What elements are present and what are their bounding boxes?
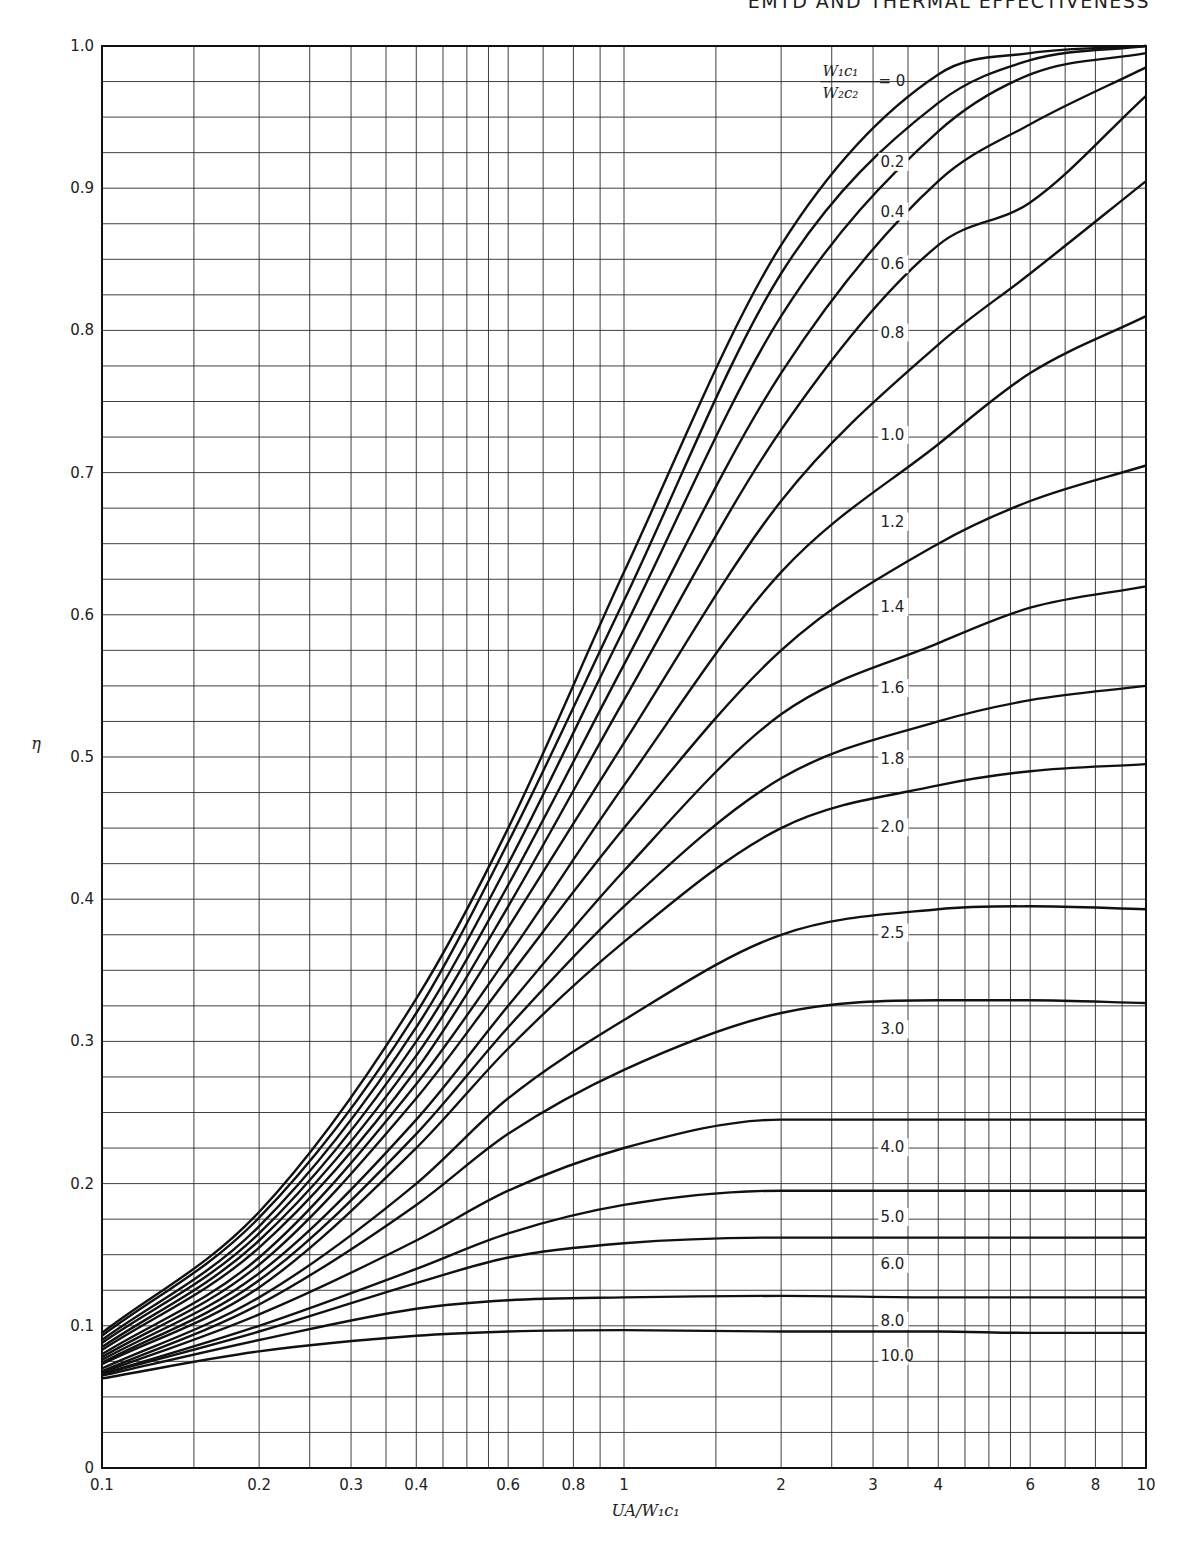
x-tick-label: 6	[1025, 1476, 1035, 1494]
y-tick-label: 0.6	[70, 606, 94, 624]
curve-label-1.6: 1.6	[880, 679, 904, 697]
x-tick-label: 1	[619, 1476, 629, 1494]
curve-label-1.2: 1.2	[880, 513, 904, 531]
x-tick-label: 2	[776, 1476, 786, 1494]
y-tick-label: 0.4	[70, 890, 94, 908]
x-axis-ticks: 0.10.20.30.40.60.812346810	[90, 1476, 1155, 1494]
legend-denominator: W₂c₂	[822, 84, 858, 102]
x-tick-label: 0.1	[90, 1476, 114, 1494]
curve-label-0.6: 0.6	[880, 255, 904, 273]
x-tick-label: 10	[1136, 1476, 1155, 1494]
curve-label-5.0: 5.0	[880, 1208, 904, 1226]
curve-label-1.4: 1.4	[880, 598, 904, 616]
y-tick-label: 0.7	[70, 464, 94, 482]
effectiveness-chart: 0.20.40.60.81.01.21.41.61.82.02.53.04.05…	[0, 0, 1180, 1558]
y-axis-title: η	[31, 734, 41, 753]
curve-label-1.0: 1.0	[880, 426, 904, 444]
y-tick-label: 0	[84, 1459, 94, 1477]
y-axis-ticks: 00.10.20.30.40.50.60.70.80.91.0	[70, 37, 94, 1477]
curve-label-3.0: 3.0	[880, 1020, 904, 1038]
legend-ratio-label: W₁c₁ W₂c₂ = 0	[820, 62, 905, 102]
y-tick-label: 0.3	[70, 1032, 94, 1050]
x-tick-label: 4	[934, 1476, 944, 1494]
curve-label-0.4: 0.4	[880, 203, 904, 221]
y-tick-label: 0.1	[70, 1317, 94, 1335]
x-axis-title: UA/W₁c₁	[612, 1501, 680, 1520]
curve-label-0.8: 0.8	[880, 324, 904, 342]
x-tick-label: 0.6	[496, 1476, 520, 1494]
curve-label-2.0: 2.0	[880, 818, 904, 836]
legend-equals-zero: = 0	[878, 72, 905, 90]
y-tick-label: 0.5	[70, 748, 94, 766]
curve-label-1.8: 1.8	[880, 750, 904, 768]
x-tick-label: 0.8	[561, 1476, 585, 1494]
curve-label-10.0: 10.0	[880, 1347, 913, 1365]
x-tick-label: 8	[1091, 1476, 1101, 1494]
curve-label-6.0: 6.0	[880, 1255, 904, 1273]
y-tick-label: 1.0	[70, 37, 94, 55]
y-tick-label: 0.2	[70, 1175, 94, 1193]
x-tick-label: 0.4	[404, 1476, 428, 1494]
x-tick-label: 0.2	[247, 1476, 271, 1494]
curve-label-8.0: 8.0	[880, 1312, 904, 1330]
y-tick-label: 0.8	[70, 321, 94, 339]
curve-label-2.5: 2.5	[880, 924, 904, 942]
curve-label-0.2: 0.2	[880, 153, 904, 171]
x-tick-label: 3	[868, 1476, 878, 1494]
y-tick-label: 0.9	[70, 179, 94, 197]
x-tick-label: 0.3	[339, 1476, 363, 1494]
grid-lines	[102, 46, 1146, 1468]
legend-numerator: W₁c₁	[822, 62, 858, 80]
curve-label-4.0: 4.0	[880, 1138, 904, 1156]
